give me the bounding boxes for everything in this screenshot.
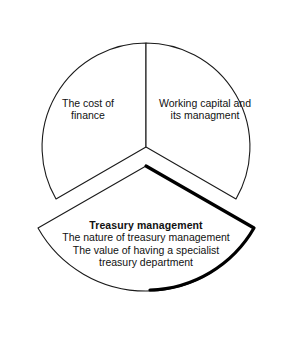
label-line: finance bbox=[38, 109, 138, 121]
label-line: The cost of bbox=[38, 97, 138, 109]
label-line: The value of having a specialist bbox=[16, 244, 276, 256]
label-cost-of-finance: The cost of finance bbox=[38, 97, 138, 122]
label-line: The nature of treasury management bbox=[16, 231, 276, 243]
label-line: treasury department bbox=[16, 256, 276, 268]
label-heading: Treasury management bbox=[16, 219, 276, 231]
label-line: Working capital and bbox=[150, 97, 260, 109]
label-treasury-management: Treasury management The nature of treasu… bbox=[16, 219, 276, 269]
label-line: its managment bbox=[150, 109, 260, 121]
label-working-capital: Working capital and its managment bbox=[150, 97, 260, 122]
pie-diagram: The cost of finance Working capital and … bbox=[0, 0, 292, 342]
pie-chart-graphic bbox=[0, 0, 292, 342]
